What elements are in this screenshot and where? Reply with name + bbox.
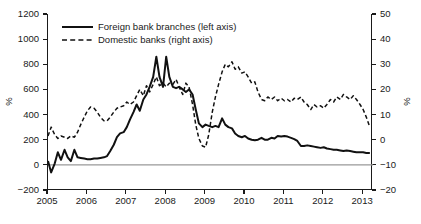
x-tick-2010: 2010 — [233, 196, 254, 206]
legend-item-domestic-banks: Domestic banks (right axis) — [62, 33, 236, 46]
x-tick-2009: 2009 — [194, 196, 215, 206]
legend-key-dashed-line-icon — [62, 35, 93, 45]
y-tick-right-20: 20 — [380, 85, 391, 95]
y-tick-right-0: 0 — [380, 135, 385, 145]
x-tick-2007-mark — [125, 190, 126, 194]
y-tick-right-50: 50 — [380, 9, 391, 19]
x-tick-2006: 2006 — [76, 196, 97, 206]
series-line-foreign-bank-branches-left-axis — [48, 57, 370, 173]
y-tick-right--20: −20 — [380, 185, 396, 195]
right-axis-unit-label: % — [401, 97, 412, 105]
chart-figure: % % 120010008006004002000−200 5040302010… — [0, 0, 421, 224]
y-tick-left--200: −200 — [18, 185, 39, 195]
y-tick-left-0: 0 — [34, 160, 39, 170]
legend-item-foreign-bank-branches: Foreign bank branches (left axis) — [62, 20, 236, 33]
legend-label-domestic-banks: Domestic banks (right axis) — [98, 34, 213, 45]
y-tick-right-40: 40 — [380, 34, 391, 44]
x-tick-2005-mark — [46, 190, 47, 194]
y-tick-right-30: 30 — [380, 60, 391, 70]
x-tick-2008-mark — [165, 190, 166, 194]
y-tick-right-10: 10 — [380, 110, 391, 120]
x-tick-2006-mark — [86, 190, 87, 194]
y-tick-left-1200: 1200 — [18, 9, 39, 19]
x-tick-2009-mark — [204, 190, 205, 194]
x-tick-2008: 2008 — [155, 196, 176, 206]
y-tick-right--10: −10 — [380, 160, 396, 170]
legend-label-foreign-bank-branches: Foreign bank branches (left axis) — [98, 21, 236, 32]
x-tick-2011: 2011 — [273, 196, 293, 206]
legend-key-solid-line-icon — [62, 22, 93, 32]
series-line-domestic-banks-right-axis — [48, 62, 370, 147]
x-tick-2012: 2012 — [312, 196, 333, 206]
y-tick-left-400: 400 — [23, 110, 39, 120]
x-tick-2012-mark — [322, 190, 323, 194]
x-tick-2011-mark — [283, 190, 284, 194]
x-tick-2013-mark — [362, 190, 363, 194]
y-tick-left-600: 600 — [23, 85, 39, 95]
y-tick-left-800: 800 — [23, 60, 39, 70]
x-tick-2005: 2005 — [36, 196, 57, 206]
y-tick-left-1000: 1000 — [18, 34, 39, 44]
x-tick-2010-mark — [243, 190, 244, 194]
x-tick-2013: 2013 — [352, 196, 373, 206]
y-tick-left-200: 200 — [23, 135, 39, 145]
x-tick-2007: 2007 — [115, 196, 136, 206]
left-axis-unit-label: % — [3, 97, 14, 105]
chart-legend: Foreign bank branches (left axis) Domest… — [62, 20, 236, 46]
